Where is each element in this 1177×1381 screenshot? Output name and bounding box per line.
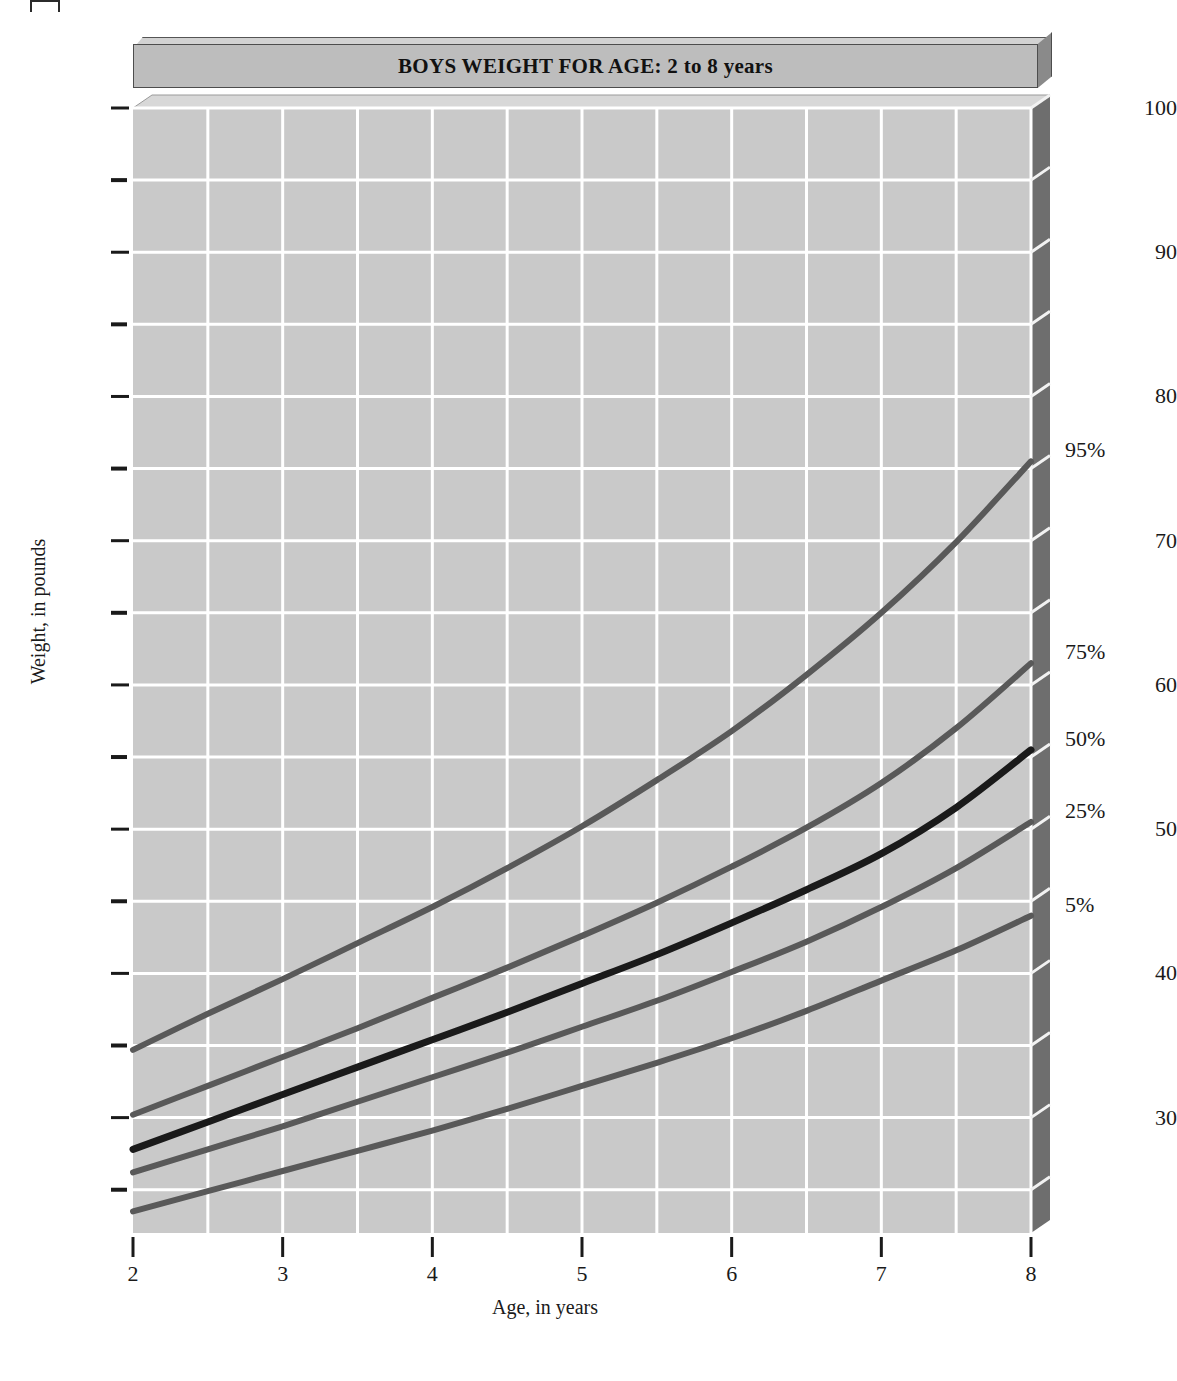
percentile-label-50pct: 50% xyxy=(1065,726,1105,752)
percentile-label-75pct: 75% xyxy=(1065,639,1105,665)
percentile-label-5pct: 5% xyxy=(1065,892,1094,918)
percentile-label-95pct: 95% xyxy=(1065,437,1105,463)
percentile-label-25pct: 25% xyxy=(1065,798,1105,824)
x-axis-title: Age, in years xyxy=(0,1296,1090,1319)
y-axis-title: Weight, in pounds xyxy=(27,512,50,712)
